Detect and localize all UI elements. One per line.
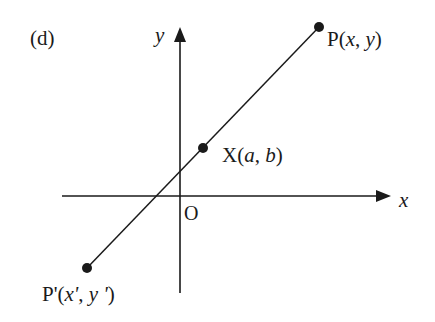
point-p-label: P(x, y) (327, 27, 382, 51)
x-axis-label: x (398, 188, 409, 212)
point-p-prime-label: P'(x', y ') (42, 282, 115, 306)
point-p-prime (82, 263, 92, 273)
y-axis-arrow-icon (174, 27, 186, 42)
y-axis-label: y (153, 23, 165, 47)
point-x-label: X(a, b) (222, 143, 283, 167)
point-x (198, 143, 208, 153)
coordinate-diagram: (d) y x O P(x, y) X(a, b) P'(x', y ') (0, 0, 435, 322)
point-p (314, 22, 324, 32)
origin-label: O (184, 202, 198, 224)
x-axis-arrow-icon (376, 190, 391, 202)
panel-label: (d) (30, 26, 55, 50)
